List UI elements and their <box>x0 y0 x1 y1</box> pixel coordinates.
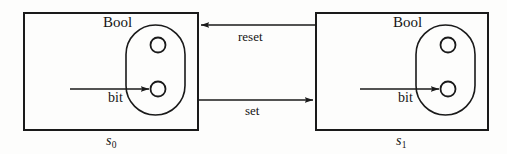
bool-lower-circle-s0 <box>151 82 166 97</box>
state-label-s1: s1 <box>396 134 406 148</box>
bool-type-label-s0: Bool <box>103 15 132 30</box>
state-label-s0-base: s <box>106 133 111 148</box>
state-label-s0: s0 <box>106 134 116 148</box>
bit-label-s0: bit <box>108 91 123 105</box>
bool-lower-circle-s1 <box>441 82 456 97</box>
set-transition-label: set <box>245 104 259 117</box>
bit-label-s1: bit <box>398 91 413 105</box>
figure-canvas: Bool bit Bool bit reset set s0 s1 <box>0 0 507 154</box>
bool-type-label-s1: Bool <box>393 15 422 30</box>
state-label-s1-base: s <box>396 133 401 148</box>
state-diagram <box>0 0 507 154</box>
bool-upper-circle-s1 <box>441 38 456 53</box>
state-label-s0-subscript: 0 <box>112 140 117 150</box>
bool-upper-circle-s0 <box>151 38 166 53</box>
state-label-s1-subscript: 1 <box>402 140 407 150</box>
reset-transition-label: reset <box>238 30 263 43</box>
